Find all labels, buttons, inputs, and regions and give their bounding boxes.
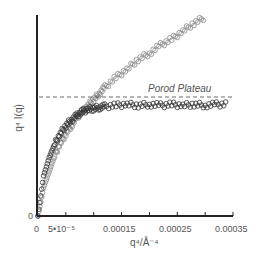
data-point — [46, 158, 51, 163]
data-point — [52, 155, 57, 160]
plateau-series — [36, 100, 228, 219]
data-point — [44, 165, 49, 170]
x-tick-label-2: 0.00015 — [103, 224, 136, 234]
x-tick-label-0: 0 — [34, 224, 39, 234]
x-tick-label-1: 5•10⁻⁵ — [48, 224, 75, 234]
porod-chart: Porod Plateau 0 0 5•10⁻⁵ 0.00015 0.00025… — [0, 0, 265, 260]
x-axis-label: q⁴/Å⁻⁴ — [130, 236, 159, 248]
y-axis-label: q⁴ I(q) — [13, 104, 24, 132]
y-tick-label-0: 0 — [28, 211, 33, 221]
x-tick-label-4: 0.00035 — [215, 224, 248, 234]
rising-series — [36, 15, 206, 218]
data-points — [36, 15, 228, 218]
x-tick-label-3: 0.00025 — [159, 224, 192, 234]
porod-plateau-label: Porod Plateau — [148, 83, 212, 94]
data-point — [45, 161, 50, 166]
data-point — [43, 168, 48, 173]
